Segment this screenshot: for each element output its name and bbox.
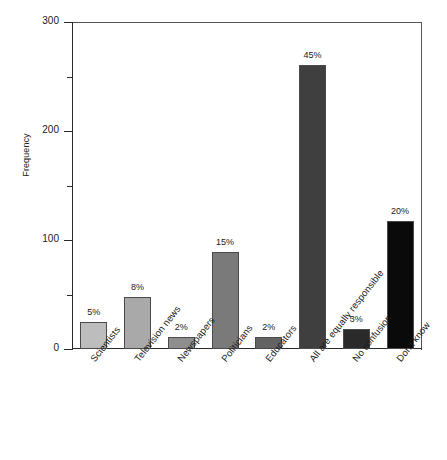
y-axis-title: Frequency: [21, 95, 31, 215]
y-axis-tick-label: 0: [19, 342, 59, 353]
y-axis-tick-label: 300: [19, 15, 59, 26]
bar-value-label: 8%: [116, 282, 160, 292]
bar: [212, 252, 239, 349]
y-axis-tick-label: 100: [19, 233, 59, 244]
y-axis-tick-minor: [67, 295, 73, 296]
bar-value-label: 20%: [378, 206, 422, 216]
bar-value-label: 15%: [203, 237, 247, 247]
bar-value-label: 5%: [72, 307, 116, 317]
y-axis-tick-minor: [67, 77, 73, 78]
bar-chart-figure: Frequency 0100200300 5%8%2%15%2%45%3%20%…: [0, 0, 447, 460]
y-axis-tick-major: [64, 240, 73, 241]
bar: [387, 221, 414, 349]
y-axis-tick-major: [64, 349, 73, 350]
bar-value-label: 45%: [291, 50, 335, 60]
y-axis-tick-major: [64, 22, 73, 23]
bar: [299, 65, 326, 349]
y-axis-tick-label: 200: [19, 124, 59, 135]
y-axis-tick-major: [64, 131, 73, 132]
y-axis-tick-minor: [67, 186, 73, 187]
